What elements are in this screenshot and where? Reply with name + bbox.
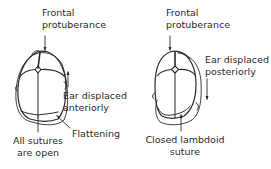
left-frontal-label-line1: Frontal (42, 7, 106, 19)
left-coronal-suture (19, 69, 64, 78)
left-sutures-label-line2: are open (8, 147, 68, 159)
right-ear-arrowhead (206, 96, 209, 100)
left-ear-right (64, 82, 66, 89)
left-frontal-label: Frontal protuberance (42, 7, 106, 31)
left-sutures-label-line1: All sutures (8, 135, 68, 147)
left-skull-main-outline (18, 51, 66, 121)
right-ear-label-line1: Ear displaced (205, 54, 269, 66)
left-flattening-label: Flattening (72, 128, 120, 140)
right-fontanelle (172, 66, 179, 73)
right-ear-label: Ear displaced posteriorly (205, 54, 269, 78)
right-lambdoid-suture-closed (158, 106, 190, 115)
left-frontal-label-line2: protuberance (42, 19, 106, 31)
right-frontal-label: Frontal protuberance (166, 7, 230, 31)
left-frontal-arrowhead (44, 47, 47, 51)
left-skull (16, 36, 70, 132)
right-skull (153, 36, 209, 131)
right-lambdoid-label-line1: Closed lambdoid (140, 134, 230, 146)
left-ear-label-line2: anteriorly (63, 102, 127, 114)
right-frontal-label-line1: Frontal (166, 7, 230, 19)
right-lambdoid-label: Closed lambdoid suture (140, 134, 230, 158)
left-ear-label-line1: Ear displaced (63, 90, 127, 102)
right-lambdoid-arrowhead (180, 114, 183, 118)
left-ear-label: Ear displaced anteriorly (63, 90, 127, 114)
left-ear-arrowhead (67, 71, 70, 75)
right-frontal-label-line2: protuberance (166, 19, 230, 31)
right-lambdoid-label-line2: suture (140, 146, 230, 158)
right-ear-label-line2: posteriorly (205, 66, 269, 78)
left-sutures-label: All sutures are open (8, 135, 68, 159)
left-lambdoid-suture (21, 111, 58, 115)
right-ear-right (196, 103, 198, 110)
right-frontal-arrowhead (169, 47, 172, 51)
